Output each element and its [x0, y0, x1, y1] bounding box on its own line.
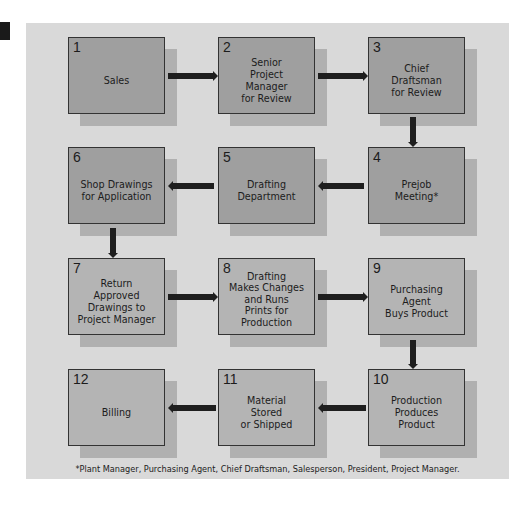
step-4: 4 Prejob Meeting* — [368, 147, 465, 224]
step-10: 10 Production Produces Product — [368, 369, 465, 446]
arrow-left-icon — [172, 183, 214, 189]
arrow-left-icon — [322, 405, 366, 411]
step-label: Production Produces Product — [371, 384, 462, 441]
step-label: Material Stored or Shipped — [221, 384, 312, 441]
step-box: 5 Drafting Department — [218, 147, 315, 224]
step-label: Chief Draftsman for Review — [371, 52, 462, 109]
step-3: 3 Chief Draftsman for Review — [368, 37, 465, 114]
step-11: 11 Material Stored or Shipped — [218, 369, 315, 446]
step-label: Drafting Department — [221, 162, 312, 219]
step-12: 12 Billing — [68, 369, 165, 446]
step-box: 12 Billing — [68, 369, 165, 446]
step-label: Billing — [71, 384, 162, 441]
step-box: 4 Prejob Meeting* — [368, 147, 465, 224]
step-label: Prejob Meeting* — [371, 162, 462, 219]
step-box: 2 Senior Project Manager for Review — [218, 37, 315, 114]
step-box: 9 Purchasing Agent Buys Product — [368, 258, 465, 335]
footnote: *Plant Manager, Purchasing Agent, Chief … — [26, 464, 509, 474]
arrow-right-icon — [168, 294, 214, 300]
step-5: 5 Drafting Department — [218, 147, 315, 224]
step-box: 1 Sales — [68, 37, 165, 114]
arrow-down-icon — [110, 228, 116, 254]
arrow-left-icon — [322, 183, 364, 189]
step-label: Shop Drawings for Application — [71, 162, 162, 219]
arrow-left-icon — [172, 405, 216, 411]
step-9: 9 Purchasing Agent Buys Product — [368, 258, 465, 335]
arrow-right-icon — [318, 294, 364, 300]
step-8: 8 Drafting Makes Changes and Runs Prints… — [218, 258, 315, 335]
step-label: Drafting Makes Changes and Runs Prints f… — [221, 269, 312, 330]
step-box: 7 Return Approved Drawings to Project Ma… — [68, 258, 165, 335]
step-label: Return Approved Drawings to Project Mana… — [71, 273, 162, 330]
arrow-right-icon — [168, 73, 214, 79]
arrow-down-icon — [410, 117, 416, 143]
step-label: Purchasing Agent Buys Product — [371, 273, 462, 330]
step-box: 6 Shop Drawings for Application — [68, 147, 165, 224]
step-2: 2 Senior Project Manager for Review — [218, 37, 315, 114]
step-box: 3 Chief Draftsman for Review — [368, 37, 465, 114]
step-label: Sales — [71, 52, 162, 109]
step-7: 7 Return Approved Drawings to Project Ma… — [68, 258, 165, 335]
step-6: 6 Shop Drawings for Application — [68, 147, 165, 224]
step-box: 8 Drafting Makes Changes and Runs Prints… — [218, 258, 315, 335]
step-box: 10 Production Produces Product — [368, 369, 465, 446]
arrow-right-icon — [318, 73, 364, 79]
step-label: Senior Project Manager for Review — [221, 52, 312, 109]
corner-marker — [0, 22, 10, 40]
step-box: 11 Material Stored or Shipped — [218, 369, 315, 446]
step-1: 1 Sales — [68, 37, 165, 114]
arrow-down-icon — [410, 340, 416, 365]
